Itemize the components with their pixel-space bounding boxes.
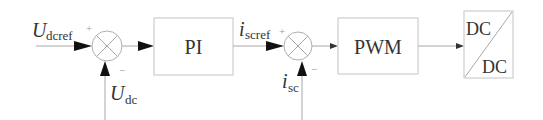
summing-junction-1: [92, 31, 122, 61]
label-iscref: i scref: [239, 18, 271, 42]
plus-sign-1: +: [86, 22, 92, 34]
arrowhead-isc: [297, 61, 307, 76]
dcdc-top-label: DC: [466, 19, 491, 39]
pwm-label: PWM: [354, 36, 402, 58]
plus-sign-2: +: [279, 25, 285, 37]
control-diagram: + − PI + − PWM DC DC U dcref U dc i: [0, 0, 543, 120]
arrowhead-iscref: [266, 41, 284, 51]
label-udc: U dc: [110, 82, 138, 107]
svg-text:sc: sc: [288, 80, 299, 95]
arrowhead-pwm: [330, 43, 338, 49]
arrowhead-udc: [100, 61, 110, 76]
svg-text:dc: dc: [125, 92, 138, 107]
arrowhead-pi: [138, 41, 154, 51]
svg-text:dcref: dcref: [46, 28, 73, 43]
minus-sign-1: −: [119, 64, 125, 76]
arrowhead-dcdc: [456, 43, 464, 49]
minus-sign-2: −: [311, 63, 317, 75]
label-udcref: U dcref: [32, 19, 73, 43]
svg-text:U: U: [110, 82, 126, 104]
svg-text:i: i: [282, 70, 288, 92]
summing-junction-2: [284, 32, 312, 60]
label-isc: i sc: [282, 70, 299, 95]
pi-label: PI: [185, 36, 203, 58]
svg-text:i: i: [239, 18, 245, 40]
svg-text:scref: scref: [245, 27, 271, 42]
dcdc-bottom-label: DC: [482, 57, 507, 77]
arrowhead-udcref: [74, 41, 92, 51]
